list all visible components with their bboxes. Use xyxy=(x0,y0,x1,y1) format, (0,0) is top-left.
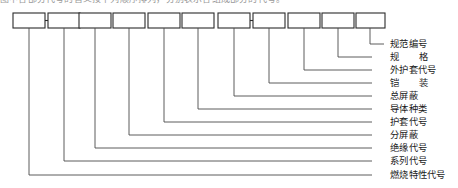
code-box-11[interactable] xyxy=(356,13,385,28)
code-box-4[interactable] xyxy=(113,13,145,28)
leader-line-7 xyxy=(234,28,372,96)
label-box-1: 燃烧特性代号 xyxy=(390,169,446,180)
label-box-7: 总屏蔽 xyxy=(390,90,419,101)
leader-line-5 xyxy=(164,28,372,122)
code-box-5[interactable] xyxy=(148,13,180,28)
leader-line-4 xyxy=(129,28,372,135)
leader-lines xyxy=(29,28,384,175)
label-box-10: 规 格 xyxy=(390,51,434,62)
leader-line-1 xyxy=(29,28,372,175)
code-box-3[interactable] xyxy=(79,13,111,28)
label-box-11: 规范编号 xyxy=(390,38,427,49)
code-box-8[interactable] xyxy=(253,13,285,28)
leader-line-8 xyxy=(269,28,372,83)
label-box-3: 绝缘代号 xyxy=(390,142,427,153)
code-box-2[interactable] xyxy=(48,13,80,28)
label-box-8: 铠 装 xyxy=(390,77,434,88)
code-box-9[interactable] xyxy=(288,13,320,28)
code-box-6[interactable] xyxy=(182,13,214,28)
diagram-canvas: 规范编号 规 格 外护套代号 铠 装 总屏蔽 导体种类 护套代号 分屏蔽 绝缘代… xyxy=(0,0,458,188)
leader-line-6 xyxy=(198,28,372,109)
leader-line-3 xyxy=(95,28,372,148)
label-box-5: 护套代号 xyxy=(390,116,427,127)
code-box-7[interactable] xyxy=(218,13,250,28)
code-box-1[interactable] xyxy=(13,13,45,28)
label-box-2: 系列代号 xyxy=(390,155,427,166)
cable-model-code-diagram: 图中各部分代号的含义按下列顺序排列，分别表示各组成部分的代号。 xyxy=(0,0,458,188)
box-row xyxy=(13,13,385,28)
label-box-9: 外护套代号 xyxy=(390,64,437,75)
label-box-4: 分屏蔽 xyxy=(390,129,419,140)
leader-line-11 xyxy=(370,28,384,44)
leader-line-2 xyxy=(64,28,372,161)
label-box-6: 导体种类 xyxy=(390,103,427,114)
code-box-10[interactable] xyxy=(322,13,354,28)
leader-line-10 xyxy=(338,28,372,57)
label-column: 规范编号 规 格 外护套代号 铠 装 总屏蔽 导体种类 护套代号 分屏蔽 绝缘代… xyxy=(390,38,446,180)
